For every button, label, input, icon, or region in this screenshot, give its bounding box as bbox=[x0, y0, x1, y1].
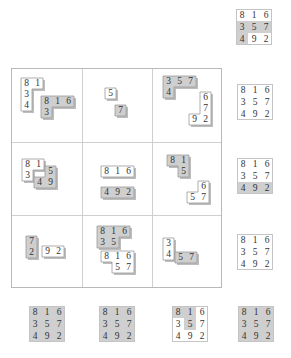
piece-number: 2 bbox=[26, 247, 37, 258]
square-border bbox=[238, 306, 274, 342]
magic-square-row2: 816357492 bbox=[237, 158, 273, 194]
piece-r3c1-1: 72 bbox=[26, 236, 40, 261]
piece-number: 5 bbox=[108, 237, 119, 248]
piece-number: 2 bbox=[123, 187, 134, 198]
piece-r1c1-2: 8163 bbox=[41, 96, 77, 121]
piece-number: 1 bbox=[52, 96, 63, 107]
piece-r1c3-2: 6792 bbox=[189, 92, 214, 128]
piece-number: 4 bbox=[163, 249, 174, 260]
piece-number: 1 bbox=[112, 166, 123, 177]
piece-r3c1-2: 92 bbox=[42, 246, 67, 260]
piece-number: 5 bbox=[105, 88, 116, 99]
piece-number: 9 bbox=[189, 114, 200, 125]
piece-r3c2-2: 81657 bbox=[101, 251, 137, 276]
magic-square-row1: 816357492 bbox=[237, 84, 273, 120]
magic-square-row3: 816357492 bbox=[237, 234, 273, 270]
magic-square-col4: 816357492 bbox=[238, 306, 274, 342]
piece-number: 8 bbox=[21, 78, 32, 89]
piece-number: 8 bbox=[22, 159, 33, 170]
piece-number: 1 bbox=[32, 78, 43, 89]
piece-number: 4 bbox=[101, 187, 112, 198]
piece-number: 6 bbox=[123, 166, 134, 177]
piece-number: 8 bbox=[101, 251, 112, 262]
piece-number: 7 bbox=[200, 103, 211, 114]
piece-number: 8 bbox=[41, 96, 52, 107]
grid-divider bbox=[12, 142, 221, 143]
piece-r2c2-2: 492 bbox=[101, 187, 137, 201]
piece-r2c3-1: 815 bbox=[167, 155, 192, 180]
grid-divider bbox=[152, 69, 153, 287]
square-border bbox=[236, 9, 272, 45]
square-border bbox=[237, 84, 273, 120]
piece-number: 9 bbox=[112, 187, 123, 198]
square-border bbox=[237, 158, 273, 194]
magic-square-col3: 816357492 bbox=[172, 306, 208, 342]
piece-number: 5 bbox=[178, 166, 189, 177]
piece-number: 4 bbox=[21, 100, 32, 111]
piece-number: 3 bbox=[163, 238, 174, 249]
piece-number: 4 bbox=[163, 87, 174, 98]
square-border bbox=[29, 306, 65, 342]
square-border bbox=[99, 306, 135, 342]
piece-number: 7 bbox=[198, 192, 209, 203]
piece-number: 3 bbox=[21, 89, 32, 100]
piece-r1c2-1: 5 bbox=[105, 88, 119, 102]
piece-r1c2-2: 7 bbox=[115, 105, 129, 119]
piece-number: 3 bbox=[22, 170, 33, 181]
piece-number: 5 bbox=[45, 166, 56, 177]
piece-number: 3 bbox=[41, 107, 52, 118]
piece-number: 7 bbox=[185, 76, 196, 87]
piece-number: 7 bbox=[26, 236, 37, 247]
piece-number: 6 bbox=[63, 96, 74, 107]
square-border bbox=[172, 306, 208, 342]
piece-r2c1-2: 549 bbox=[34, 166, 59, 191]
piece-number: 7 bbox=[186, 252, 197, 263]
piece-number: 1 bbox=[108, 226, 119, 237]
piece-number: 9 bbox=[45, 177, 56, 188]
square-border bbox=[237, 234, 273, 270]
piece-number: 2 bbox=[200, 114, 211, 125]
piece-r3c2-1: 81635 bbox=[97, 226, 133, 251]
piece-number: 8 bbox=[97, 226, 108, 237]
magic-square-top: 816357492 bbox=[236, 9, 272, 45]
piece-number: 7 bbox=[123, 262, 134, 273]
piece-r3c3-2: 57 bbox=[175, 252, 200, 266]
piece-number: 5 bbox=[175, 252, 186, 263]
piece-r2c3-2: 657 bbox=[187, 181, 212, 206]
piece-number: 6 bbox=[119, 226, 130, 237]
piece-r2c2-1: 816 bbox=[101, 166, 137, 180]
piece-number: 3 bbox=[97, 237, 108, 248]
piece-number: 9 bbox=[42, 246, 53, 257]
piece-number: 1 bbox=[112, 251, 123, 262]
grid-divider bbox=[12, 215, 221, 216]
grid-divider bbox=[82, 69, 83, 287]
piece-number: 3 bbox=[163, 76, 174, 87]
piece-number: 6 bbox=[198, 181, 209, 192]
piece-number: 6 bbox=[123, 251, 134, 262]
piece-number: 5 bbox=[112, 262, 123, 273]
piece-number: 8 bbox=[167, 155, 178, 166]
piece-number: 8 bbox=[101, 166, 112, 177]
piece-number: 2 bbox=[53, 246, 64, 257]
magic-square-col1: 816357492 bbox=[29, 306, 65, 342]
piece-number: 7 bbox=[115, 105, 126, 116]
magic-square-col2: 816357492 bbox=[99, 306, 135, 342]
piece-number: 1 bbox=[178, 155, 189, 166]
piece-number: 6 bbox=[200, 92, 211, 103]
piece-number: 5 bbox=[187, 192, 198, 203]
piece-number: 5 bbox=[174, 76, 185, 87]
piece-number: 4 bbox=[34, 177, 45, 188]
